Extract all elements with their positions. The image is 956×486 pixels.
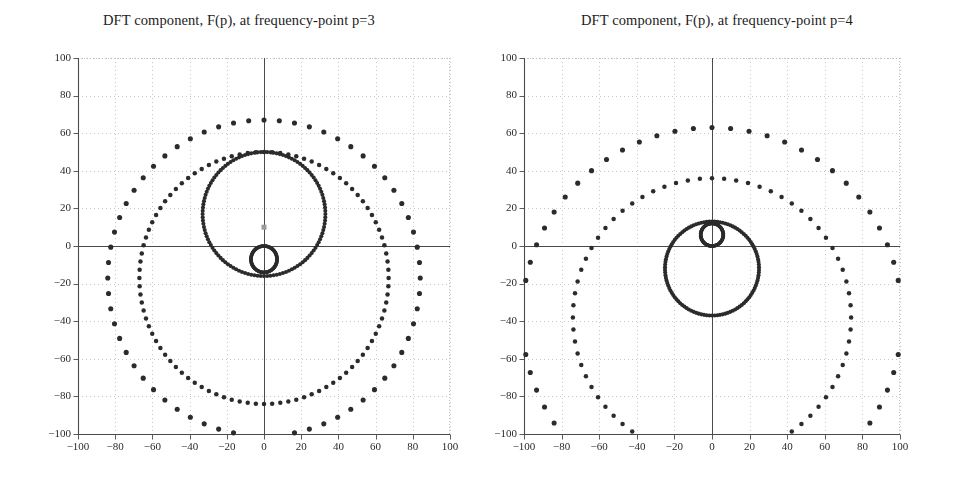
plot-panel-left: DFT component, F(p), at frequency-point … [0,0,478,486]
plot-panel-right: DFT component, F(p), at frequency-point … [478,0,956,486]
scatter-plot-left [0,0,478,486]
figure-root: DFT component, F(p), at frequency-point … [0,0,956,486]
scatter-plot-right [478,0,956,486]
